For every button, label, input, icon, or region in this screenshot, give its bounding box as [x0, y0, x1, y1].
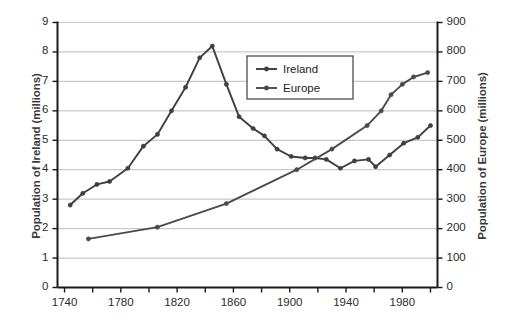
data-point-ireland-14: [262, 134, 266, 138]
data-point-ireland-12: [237, 115, 241, 119]
data-point-europe-0: [86, 237, 90, 241]
chart-canvas: IrelandEurope: [0, 0, 511, 326]
data-point-ireland-7: [169, 109, 173, 113]
x-tick-label-1820: 1820: [147, 296, 207, 308]
y-tick-label-right-100: 100: [447, 251, 491, 263]
legend-label-ireland: Ireland: [283, 63, 318, 75]
data-point-europe-3: [295, 168, 299, 172]
y-tick-label-left-7: 7: [9, 74, 49, 86]
data-point-ireland-9: [198, 56, 202, 60]
data-point-ireland-22: [366, 157, 370, 161]
data-point-ireland-27: [428, 123, 432, 127]
x-tick-label-1740: 1740: [35, 296, 95, 308]
data-point-europe-6: [379, 109, 383, 113]
y-tick-label-right-300: 300: [447, 192, 491, 204]
x-tick-label-1780: 1780: [91, 296, 151, 308]
y-tick-label-right-800: 800: [447, 44, 491, 56]
legend-swatch-marker-0: [264, 67, 269, 72]
data-point-ireland-11: [224, 82, 228, 86]
data-point-ireland-0: [68, 203, 72, 207]
x-tick-label-1900: 1900: [260, 296, 320, 308]
y-tick-label-left-2: 2: [9, 221, 49, 233]
data-point-ireland-4: [126, 166, 130, 170]
y-tick-label-right-600: 600: [447, 103, 491, 115]
data-point-ireland-25: [402, 141, 406, 145]
y-tick-label-right-500: 500: [447, 133, 491, 145]
y-tick-label-left-5: 5: [9, 133, 49, 145]
data-point-europe-5: [365, 123, 369, 127]
y-tick-label-right-400: 400: [447, 162, 491, 174]
y-tick-label-right-900: 900: [447, 15, 491, 27]
population-line-chart: IrelandEurope Population of Ireland (mil…: [0, 0, 511, 326]
legend-label-europe: Europe: [283, 82, 320, 94]
data-point-europe-8: [400, 82, 404, 86]
data-point-ireland-5: [141, 144, 145, 148]
y-tick-label-right-0: 0: [447, 280, 491, 292]
chart-legend: IrelandEurope: [247, 56, 353, 99]
x-tick-label-1860: 1860: [203, 296, 263, 308]
data-point-europe-2: [224, 201, 228, 205]
data-point-ireland-23: [373, 165, 377, 169]
y-tick-label-left-9: 9: [9, 15, 49, 27]
data-point-ireland-8: [183, 85, 187, 89]
data-point-ireland-1: [81, 191, 85, 195]
data-point-europe-1: [155, 225, 159, 229]
data-point-ireland-13: [251, 126, 255, 130]
y-tick-label-left-6: 6: [9, 103, 49, 115]
data-point-ireland-16: [289, 154, 293, 158]
data-point-ireland-21: [352, 159, 356, 163]
x-tick-label-1980: 1980: [372, 296, 432, 308]
y-tick-label-left-1: 1: [9, 251, 49, 263]
data-point-ireland-19: [324, 157, 328, 161]
y-tick-label-left-8: 8: [9, 44, 49, 56]
data-point-ireland-24: [388, 153, 392, 157]
y-tick-label-right-700: 700: [447, 74, 491, 86]
data-point-ireland-15: [275, 147, 279, 151]
data-point-europe-9: [411, 75, 415, 79]
y-tick-label-left-4: 4: [9, 162, 49, 174]
data-point-ireland-10: [210, 44, 214, 48]
y-tick-label-left-0: 0: [9, 280, 49, 292]
y-tick-label-right-200: 200: [447, 221, 491, 233]
legend-swatch-marker-1: [264, 86, 269, 91]
data-point-ireland-2: [95, 182, 99, 186]
data-point-ireland-6: [155, 132, 159, 136]
y-tick-label-left-3: 3: [9, 192, 49, 204]
x-tick-label-1940: 1940: [316, 296, 376, 308]
data-point-europe-7: [389, 93, 393, 97]
data-point-ireland-20: [338, 166, 342, 170]
data-point-ireland-3: [107, 179, 111, 183]
data-point-europe-10: [426, 70, 430, 74]
data-point-ireland-26: [416, 135, 420, 139]
data-point-europe-4: [330, 147, 334, 151]
data-point-ireland-17: [303, 156, 307, 160]
